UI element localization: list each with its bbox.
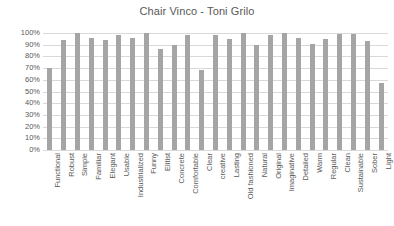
x-axis-slot: Old fashioned bbox=[236, 151, 250, 225]
x-axis-slot: Lasting bbox=[222, 151, 236, 225]
bar-slot bbox=[181, 33, 195, 150]
bar-slot bbox=[153, 33, 167, 150]
bar bbox=[296, 38, 301, 150]
bar-chart: Chair Vinco - Toni Grilo 100%90%80%70%60… bbox=[0, 0, 394, 226]
bar-slot bbox=[98, 33, 112, 150]
bar bbox=[254, 45, 259, 150]
x-axis-slot: Elegant bbox=[98, 151, 112, 225]
bar-slot bbox=[374, 33, 388, 150]
bar bbox=[337, 34, 342, 150]
bar bbox=[185, 35, 190, 150]
y-axis-tick-label: 100% bbox=[8, 29, 40, 37]
bar-slot bbox=[319, 33, 333, 150]
x-axis-slot: Imaginative bbox=[278, 151, 292, 225]
x-axis-slot: Funny bbox=[140, 151, 154, 225]
bar bbox=[144, 33, 149, 150]
bar bbox=[282, 33, 287, 150]
y-axis-tick-label: 60% bbox=[8, 76, 40, 84]
bar bbox=[199, 70, 204, 150]
bar-slot bbox=[71, 33, 85, 150]
bar-slot bbox=[195, 33, 209, 150]
x-axis-slot: Elitist bbox=[153, 151, 167, 225]
x-axis-slot: Industrialized bbox=[126, 151, 140, 225]
bar-series bbox=[43, 33, 388, 150]
bar bbox=[213, 35, 218, 150]
x-axis-slot: Simple bbox=[71, 151, 85, 225]
y-axis-tick-label: 80% bbox=[8, 52, 40, 60]
bar bbox=[323, 39, 328, 150]
x-axis-slot: Functional bbox=[43, 151, 57, 225]
y-axis-tick-label: 90% bbox=[8, 41, 40, 49]
bar-slot bbox=[222, 33, 236, 150]
y-axis: 100%90%80%70%60%50%40%30%20%10%0% bbox=[8, 28, 40, 152]
x-axis: FunctionalRobustSimpleFamiliarElegantUsa… bbox=[43, 151, 388, 225]
bar-slot bbox=[305, 33, 319, 150]
x-axis-slot: Sober bbox=[360, 151, 374, 225]
x-axis-slot: Robust bbox=[57, 151, 71, 225]
bar bbox=[75, 33, 80, 150]
bar-slot bbox=[167, 33, 181, 150]
bar bbox=[268, 35, 273, 150]
y-axis-tick-label: 40% bbox=[8, 99, 40, 107]
y-axis-tick-label: 20% bbox=[8, 123, 40, 131]
bar bbox=[310, 44, 315, 150]
bar bbox=[89, 38, 94, 150]
bar-slot bbox=[333, 33, 347, 150]
y-axis-tick-label: 0% bbox=[8, 146, 40, 154]
x-axis-slot: Comfortable bbox=[181, 151, 195, 225]
plot-area bbox=[43, 33, 388, 150]
bar-slot bbox=[347, 33, 361, 150]
bar bbox=[103, 40, 108, 150]
x-axis-slot: Clear bbox=[195, 151, 209, 225]
bar-slot bbox=[112, 33, 126, 150]
bar-slot bbox=[278, 33, 292, 150]
bar bbox=[379, 83, 384, 150]
bar bbox=[227, 39, 232, 150]
x-axis-slot: Detailed bbox=[291, 151, 305, 225]
y-axis-tick-label: 10% bbox=[8, 134, 40, 142]
x-axis-slot: Familiar bbox=[84, 151, 98, 225]
bar bbox=[351, 34, 356, 150]
y-axis-tick-label: 50% bbox=[8, 88, 40, 96]
bar-slot bbox=[209, 33, 223, 150]
x-axis-slot: Clean bbox=[333, 151, 347, 225]
bar bbox=[130, 38, 135, 150]
x-axis-tick-label: Light bbox=[385, 153, 393, 169]
bar-slot bbox=[250, 33, 264, 150]
x-axis-slot: Light bbox=[374, 151, 388, 225]
bar-slot bbox=[43, 33, 57, 150]
x-axis-slot: Natural bbox=[250, 151, 264, 225]
x-axis-slot: creative bbox=[209, 151, 223, 225]
x-axis-slot: Warm bbox=[305, 151, 319, 225]
x-axis-slot: Concrete bbox=[167, 151, 181, 225]
bar bbox=[47, 68, 52, 150]
chart-title: Chair Vinco - Toni Grilo bbox=[0, 4, 394, 18]
bar-slot bbox=[57, 33, 71, 150]
x-axis-slot: Original bbox=[264, 151, 278, 225]
bar-slot bbox=[126, 33, 140, 150]
bar-slot bbox=[140, 33, 154, 150]
bar bbox=[61, 40, 66, 150]
bar-slot bbox=[360, 33, 374, 150]
bar bbox=[241, 33, 246, 150]
x-axis-slot: Sustainable bbox=[347, 151, 361, 225]
bar-slot bbox=[291, 33, 305, 150]
y-axis-tick-label: 30% bbox=[8, 111, 40, 119]
bar bbox=[172, 45, 177, 150]
y-axis-tick-label: 70% bbox=[8, 64, 40, 72]
x-axis-slot: Usable bbox=[112, 151, 126, 225]
x-axis-slot: Regular bbox=[319, 151, 333, 225]
bar-slot bbox=[236, 33, 250, 150]
bar-slot bbox=[264, 33, 278, 150]
bar bbox=[365, 41, 370, 150]
bar bbox=[158, 49, 163, 150]
bar bbox=[116, 35, 121, 150]
bar-slot bbox=[84, 33, 98, 150]
